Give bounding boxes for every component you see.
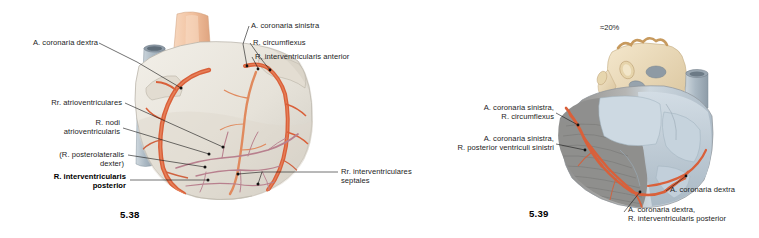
label-a-coronaria-dextra-r-interventricularis-posterior: A. coronaria dextra, R. interventricular…	[628, 205, 759, 224]
label-r-nodi-atrioventricularis: R. nodi atrioventricularis	[22, 118, 120, 137]
label-a-coronaria-sinistra-r-circumflexus: A. coronaria sinistra, R. circumflexus	[440, 103, 554, 122]
label-r-posterolateralis-dexter: (R. posterolateralis dexter)	[14, 150, 124, 169]
label-rr-interventriculares-septales: Rr. interventriculares septales	[341, 167, 471, 186]
label-a-coronaria-sinistra: A. coronaria sinistra	[251, 21, 381, 30]
figure-number-5-39: 5.39	[529, 208, 548, 219]
label-r-interventricularis-anterior: R. interventricularis anterior	[255, 52, 415, 61]
heart-posterior-illustration	[558, 38, 713, 208]
label-a-coronaria-sinistra-r-posterior-ventriculi-sinistri: A. coronaria sinistra, R. posterior vent…	[404, 134, 554, 153]
figure-page: A. coronaria dextra A. coronaria sinistr…	[0, 0, 759, 238]
label-a-coronaria-dextra-posterior: A. coronaria dextra	[670, 185, 759, 194]
label-a-coronaria-dextra: A. coronaria dextra	[0, 38, 98, 47]
figure-number-5-38: 5.38	[120, 209, 139, 220]
label-rr-atrioventriculares: Rr. atrioventriculares	[14, 98, 122, 107]
percentage-marker-20: ≈20%	[600, 23, 619, 32]
label-r-interventricularis-posterior: R. interventricularis posterior	[8, 172, 126, 191]
label-r-circumflexus: R. circumflexus	[253, 38, 383, 47]
